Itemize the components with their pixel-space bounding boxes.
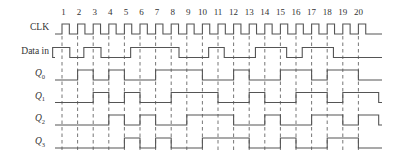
- pulse-number: 20: [354, 7, 364, 17]
- pulse-number: 13: [245, 7, 255, 17]
- pulse-number: 5: [124, 7, 129, 17]
- pulse-number: 9: [186, 7, 191, 17]
- clock-pulse-numbers: 1234567891011121314151617181920: [61, 7, 363, 17]
- waveform-q3: [55, 138, 382, 148]
- waveform-data-in: [53, 48, 382, 58]
- pulse-number: 6: [139, 7, 144, 17]
- waveform-clk: [55, 24, 382, 34]
- pulse-number: 7: [155, 7, 160, 17]
- waveform-q2: [55, 115, 382, 125]
- pulse-number: 1: [61, 7, 66, 17]
- pulse-number: 15: [276, 7, 286, 17]
- pulse-number: 14: [260, 7, 270, 17]
- pulse-number: 19: [338, 7, 348, 17]
- pulse-number: 12: [229, 7, 238, 17]
- pulse-number: 2: [77, 7, 82, 17]
- signal-label-data_in: Data in: [21, 46, 49, 56]
- pulse-number: 8: [170, 7, 175, 17]
- pulse-number: 10: [198, 7, 208, 17]
- pulse-number: 4: [108, 7, 113, 17]
- signal-label-q0: Q0: [35, 68, 45, 80]
- clock-edge-guides: [62, 36, 358, 151]
- waveform-q0: [55, 70, 382, 80]
- waveform-q1: [55, 93, 382, 103]
- timing-diagram: 1234567891011121314151617181920 CLKData …: [0, 0, 400, 165]
- pulse-number: 16: [292, 7, 302, 17]
- signal-label-q1: Q1: [35, 91, 45, 103]
- pulse-number: 3: [92, 7, 97, 17]
- signal-label-clk: CLK: [30, 22, 49, 32]
- pulse-number: 17: [307, 7, 317, 17]
- signal-labels: CLKData inQ0Q1Q2Q3: [21, 22, 49, 148]
- signal-label-q2: Q2: [35, 113, 45, 125]
- waveforms: [53, 24, 382, 148]
- pulse-number: 11: [214, 7, 223, 17]
- signal-label-q3: Q3: [35, 136, 45, 148]
- pulse-number: 18: [323, 7, 333, 17]
